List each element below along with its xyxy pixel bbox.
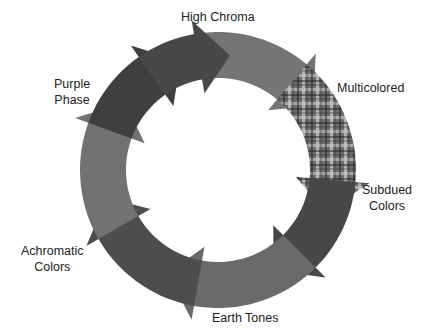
label-achromatic-colors: Achromatic Colors bbox=[21, 243, 84, 275]
label-text: Colors bbox=[21, 259, 84, 275]
label-subdued-colors: Subdued Colors bbox=[362, 182, 412, 214]
label-text: Phase bbox=[54, 92, 90, 108]
label-text: Achromatic bbox=[21, 243, 84, 259]
label-text: Subdued bbox=[362, 182, 412, 198]
ring-segments bbox=[75, 20, 369, 319]
label-earth-tones: Earth Tones bbox=[212, 310, 278, 326]
color-phase-cycle-diagram bbox=[0, 0, 432, 330]
label-text: Earth Tones bbox=[212, 311, 278, 325]
label-purple-phase: Purple Phase bbox=[54, 76, 90, 108]
label-text: Purple bbox=[54, 76, 90, 92]
label-high-chroma: High Chroma bbox=[181, 9, 255, 25]
label-text: Multicolored bbox=[337, 81, 404, 95]
label-text: High Chroma bbox=[181, 10, 255, 24]
label-multicolored: Multicolored bbox=[337, 80, 404, 96]
label-text: Colors bbox=[362, 198, 412, 214]
